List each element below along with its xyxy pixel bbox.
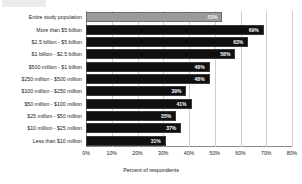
x-tick-label: 40% (184, 150, 194, 157)
bar-value-label: 58% (220, 51, 230, 57)
x-tick-label: 60% (235, 150, 245, 157)
bar-chart: Entire study population53%More than $5 b… (0, 0, 302, 184)
bar: 53% (86, 12, 222, 22)
bar: 48% (86, 74, 210, 84)
x-tick-label: 20% (132, 150, 142, 157)
category-label: Entire study population (29, 14, 82, 21)
bar: 48% (86, 62, 210, 72)
chart-row: More than $5 billion69% (86, 25, 292, 35)
plot-area: Entire study population53%More than $5 b… (86, 11, 292, 147)
x-axis-title: Percent of respondents (0, 166, 302, 174)
gridline (292, 11, 293, 147)
category-label: $500 million - $1 billion (29, 63, 82, 70)
bar: 41% (86, 99, 192, 109)
chart-row: Entire study population53% (86, 12, 292, 22)
bar-value-label: 48% (195, 64, 205, 70)
bar: 31% (86, 136, 166, 146)
scan-artifact (2, 0, 46, 7)
category-label: $1 billion - $2.5 billion (32, 51, 82, 58)
chart-row: $250 million - $500 million48% (86, 74, 292, 84)
bar-value-label: 31% (151, 138, 161, 144)
bar: 63% (86, 37, 248, 47)
chart-row: $25 million - $50 million35% (86, 111, 292, 121)
bar: 37% (86, 123, 181, 133)
bar: 58% (86, 49, 235, 59)
chart-row: $100 million - $250 million39% (86, 86, 292, 96)
x-tick-label: 50% (210, 150, 220, 157)
category-label: $2.5 billion - $5 billion (32, 38, 82, 45)
category-label: $100 million - $250 million (21, 88, 82, 95)
bar-value-label: 35% (161, 113, 171, 119)
chart-row: $2.5 billion - $5 billion63% (86, 37, 292, 47)
chart-row: Less than $10 million31% (86, 136, 292, 146)
x-tick-label: 70% (261, 150, 271, 157)
bar-value-label: 53% (207, 14, 217, 20)
chart-row: $10 million - $25 million37% (86, 123, 292, 133)
x-tick-label: 30% (158, 150, 168, 157)
x-tick-label: 0% (82, 150, 90, 157)
chart-row: $1 billion - $2.5 billion58% (86, 49, 292, 59)
category-label: $50 million - $100 million (24, 100, 82, 107)
category-label: $10 million - $25 million (27, 125, 82, 132)
chart-row: $500 million - $1 billion48% (86, 62, 292, 72)
bar: 35% (86, 111, 176, 121)
category-label: More than $5 billion (36, 26, 82, 33)
bar: 39% (86, 86, 186, 96)
bar-value-label: 69% (249, 27, 259, 33)
bar-value-label: 41% (177, 101, 187, 107)
bar-value-label: 37% (166, 125, 176, 131)
bar: 69% (86, 25, 264, 35)
category-label: $25 million - $50 million (27, 113, 82, 120)
category-label: $250 million - $500 million (21, 76, 82, 83)
x-tick-label: 10% (107, 150, 117, 157)
chart-row: $50 million - $100 million41% (86, 99, 292, 109)
x-tick-label: 80% (287, 150, 297, 157)
category-label: Less than $10 million (33, 137, 82, 144)
bar-value-label: 48% (195, 76, 205, 82)
bar-value-label: 63% (233, 39, 243, 45)
bar-value-label: 39% (171, 88, 181, 94)
